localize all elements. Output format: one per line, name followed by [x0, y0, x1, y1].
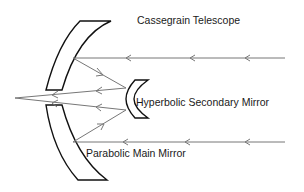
diagram-title: Cassegrain Telescope [137, 14, 240, 26]
reflected-ray-bottom [73, 110, 126, 142]
main-mirror-label: Parabolic Main Mirror [86, 147, 186, 159]
main-mirror-upper [46, 21, 111, 90]
cassegrain-diagram: Cassegrain Telescope Hyperbolic Secondar… [0, 0, 304, 192]
secondary-mirror-label: Hyperbolic Secondary Mirror [136, 96, 270, 108]
focus-ray-bottom [15, 98, 126, 110]
reflected-ray-top [73, 58, 126, 88]
focus-ray-top [15, 88, 126, 98]
